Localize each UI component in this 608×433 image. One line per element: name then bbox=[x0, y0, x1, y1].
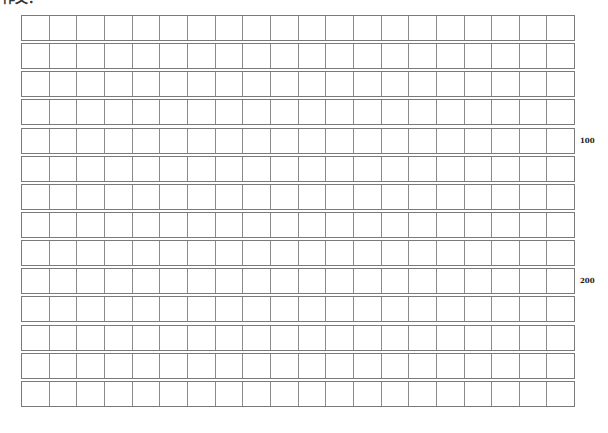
grid-cell[interactable] bbox=[437, 297, 465, 321]
grid-cell[interactable] bbox=[437, 382, 465, 406]
grid-cell[interactable] bbox=[77, 213, 105, 237]
grid-cell[interactable] bbox=[105, 129, 133, 153]
grid-cell[interactable] bbox=[105, 44, 133, 68]
grid-cell[interactable] bbox=[160, 382, 188, 406]
grid-cell[interactable] bbox=[243, 326, 271, 350]
grid-cell[interactable] bbox=[547, 44, 574, 68]
grid-cell[interactable] bbox=[160, 16, 188, 40]
grid-cell[interactable] bbox=[22, 157, 50, 181]
grid-cell[interactable] bbox=[299, 44, 327, 68]
grid-cell[interactable] bbox=[160, 269, 188, 293]
grid-cell[interactable] bbox=[520, 44, 548, 68]
grid-cell[interactable] bbox=[216, 269, 244, 293]
grid-cell[interactable] bbox=[492, 44, 520, 68]
grid-cell[interactable] bbox=[326, 213, 354, 237]
grid-cell[interactable] bbox=[354, 44, 382, 68]
grid-cell[interactable] bbox=[50, 72, 78, 96]
grid-cell[interactable] bbox=[326, 297, 354, 321]
grid-cell[interactable] bbox=[50, 382, 78, 406]
grid-cell[interactable] bbox=[77, 297, 105, 321]
grid-cell[interactable] bbox=[77, 326, 105, 350]
grid-cell[interactable] bbox=[188, 326, 216, 350]
grid-cell[interactable] bbox=[299, 213, 327, 237]
grid-cell[interactable] bbox=[188, 213, 216, 237]
grid-cell[interactable] bbox=[188, 44, 216, 68]
grid-cell[interactable] bbox=[354, 326, 382, 350]
grid-cell[interactable] bbox=[271, 100, 299, 124]
grid-cell[interactable] bbox=[354, 269, 382, 293]
grid-cell[interactable] bbox=[437, 185, 465, 209]
grid-cell[interactable] bbox=[243, 44, 271, 68]
grid-cell[interactable] bbox=[22, 326, 50, 350]
grid-cell[interactable] bbox=[133, 382, 161, 406]
grid-cell[interactable] bbox=[547, 213, 574, 237]
grid-cell[interactable] bbox=[547, 241, 574, 265]
grid-cell[interactable] bbox=[520, 241, 548, 265]
grid-cell[interactable] bbox=[437, 44, 465, 68]
grid-cell[interactable] bbox=[299, 354, 327, 378]
grid-cell[interactable] bbox=[50, 185, 78, 209]
grid-cell[interactable] bbox=[409, 16, 437, 40]
grid-cell[interactable] bbox=[547, 354, 574, 378]
grid-cell[interactable] bbox=[216, 185, 244, 209]
grid-cell[interactable] bbox=[492, 213, 520, 237]
grid-cell[interactable] bbox=[105, 269, 133, 293]
grid-cell[interactable] bbox=[492, 72, 520, 96]
grid-cell[interactable] bbox=[133, 269, 161, 293]
grid-cell[interactable] bbox=[299, 157, 327, 181]
grid-cell[interactable] bbox=[243, 354, 271, 378]
grid-cell[interactable] bbox=[382, 297, 410, 321]
grid-cell[interactable] bbox=[77, 129, 105, 153]
grid-cell[interactable] bbox=[547, 72, 574, 96]
grid-cell[interactable] bbox=[409, 157, 437, 181]
grid-cell[interactable] bbox=[465, 44, 493, 68]
grid-cell[interactable] bbox=[160, 100, 188, 124]
grid-cell[interactable] bbox=[133, 44, 161, 68]
grid-cell[interactable] bbox=[188, 16, 216, 40]
grid-cell[interactable] bbox=[133, 241, 161, 265]
grid-cell[interactable] bbox=[465, 157, 493, 181]
grid-cell[interactable] bbox=[299, 185, 327, 209]
grid-cell[interactable] bbox=[188, 129, 216, 153]
grid-cell[interactable] bbox=[437, 241, 465, 265]
grid-cell[interactable] bbox=[520, 100, 548, 124]
grid-cell[interactable] bbox=[133, 185, 161, 209]
grid-cell[interactable] bbox=[326, 269, 354, 293]
grid-cell[interactable] bbox=[547, 129, 574, 153]
grid-cell[interactable] bbox=[50, 129, 78, 153]
grid-cell[interactable] bbox=[465, 269, 493, 293]
grid-cell[interactable] bbox=[50, 297, 78, 321]
grid-cell[interactable] bbox=[22, 72, 50, 96]
grid-cell[interactable] bbox=[216, 100, 244, 124]
grid-cell[interactable] bbox=[382, 241, 410, 265]
grid-cell[interactable] bbox=[271, 297, 299, 321]
grid-cell[interactable] bbox=[133, 354, 161, 378]
grid-cell[interactable] bbox=[382, 354, 410, 378]
grid-cell[interactable] bbox=[243, 269, 271, 293]
grid-cell[interactable] bbox=[50, 157, 78, 181]
grid-cell[interactable] bbox=[160, 241, 188, 265]
grid-cell[interactable] bbox=[77, 100, 105, 124]
grid-cell[interactable] bbox=[354, 382, 382, 406]
grid-cell[interactable] bbox=[465, 72, 493, 96]
grid-cell[interactable] bbox=[354, 72, 382, 96]
grid-cell[interactable] bbox=[492, 297, 520, 321]
grid-cell[interactable] bbox=[50, 16, 78, 40]
grid-cell[interactable] bbox=[216, 326, 244, 350]
grid-cell[interactable] bbox=[243, 129, 271, 153]
grid-cell[interactable] bbox=[216, 16, 244, 40]
grid-cell[interactable] bbox=[465, 185, 493, 209]
grid-cell[interactable] bbox=[299, 269, 327, 293]
grid-cell[interactable] bbox=[299, 72, 327, 96]
grid-cell[interactable] bbox=[160, 129, 188, 153]
grid-cell[interactable] bbox=[547, 157, 574, 181]
grid-cell[interactable] bbox=[271, 72, 299, 96]
grid-cell[interactable] bbox=[437, 72, 465, 96]
grid-cell[interactable] bbox=[188, 241, 216, 265]
grid-cell[interactable] bbox=[105, 326, 133, 350]
grid-cell[interactable] bbox=[409, 72, 437, 96]
grid-cell[interactable] bbox=[299, 297, 327, 321]
grid-cell[interactable] bbox=[243, 213, 271, 237]
grid-cell[interactable] bbox=[326, 382, 354, 406]
grid-cell[interactable] bbox=[22, 382, 50, 406]
